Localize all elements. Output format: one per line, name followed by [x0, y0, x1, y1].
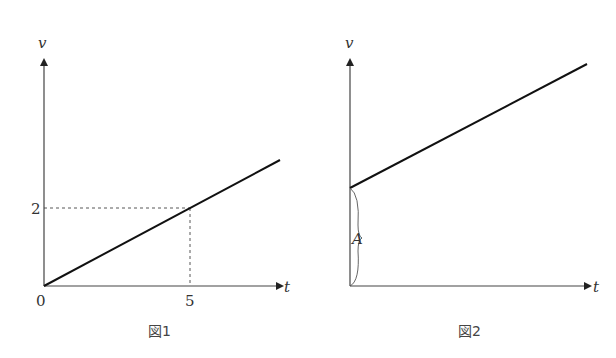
fig1-x-tick-label: 5: [185, 292, 195, 310]
fig2-data-line: [350, 64, 587, 188]
fig2-y-axis-label: v: [345, 34, 354, 52]
diagram-canvas: v t 0 5 2 図1 A v t 図2: [0, 0, 616, 358]
fig2-caption: 図2: [458, 323, 481, 339]
figure-1: v t 0 5 2 図1: [31, 34, 291, 339]
fig1-y-axis-label: v: [38, 34, 47, 52]
fig2-intercept-label: A: [350, 230, 363, 248]
fig1-data-line: [44, 160, 280, 286]
fig2-x-axis-label: t: [593, 278, 600, 296]
fig1-origin-label: 0: [36, 292, 46, 310]
fig1-y-tick-label: 2: [31, 200, 41, 218]
figure-2: A v t 図2: [345, 34, 600, 339]
fig1-x-axis-label: t: [284, 278, 291, 296]
fig1-caption: 図1: [148, 323, 171, 339]
